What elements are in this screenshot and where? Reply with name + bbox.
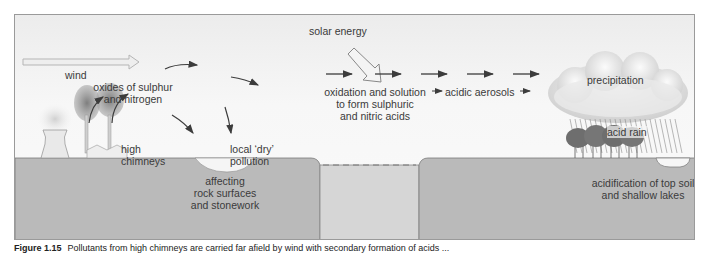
acidification-label-line-1: acidification of top soil: [583, 177, 695, 189]
oxidation-label-line-2: to form sulphuric: [315, 98, 435, 110]
affecting-rock-label: affecting rock surfaces and stonework: [175, 175, 275, 211]
oxides-label: oxides of sulphur and nitrogen: [81, 81, 185, 105]
rain-cloud-icon: [548, 51, 688, 123]
high-chimneys-label: high chimneys: [121, 143, 165, 167]
oxidation-label: oxidation and solution to form sulphuric…: [315, 86, 435, 122]
local-dry-pollution-label: local ‘dry’ pollution: [230, 143, 274, 167]
affecting-label-line-3: and stonework: [175, 199, 275, 211]
figure-number: Figure 1.15: [14, 243, 62, 253]
chimneys-label-line-2: chimneys: [121, 155, 165, 167]
solar-energy-label: solar energy: [309, 25, 367, 37]
diagram-artwork: [15, 15, 695, 240]
precipitation-label: precipitation: [587, 74, 644, 86]
chimneys-label-line-1: high: [121, 143, 165, 155]
wind-arrow-icon: [23, 55, 139, 69]
affecting-label-line-1: affecting: [175, 175, 275, 187]
cooling-tower-icon: [37, 103, 73, 158]
acidic-aerosols-label: acidic aerosols: [445, 86, 514, 98]
oxides-label-line-2: and nitrogen: [81, 93, 185, 105]
oxidation-label-line-1: oxidation and solution: [315, 86, 435, 98]
acidification-label: acidification of top soil and shallow la…: [583, 177, 695, 201]
oxides-label-line-1: oxides of sulphur: [81, 81, 185, 93]
local-label-line-1: local ‘dry’: [230, 143, 274, 155]
wind-label: wind: [65, 69, 87, 81]
figure-caption: Figure 1.15Pollutants from high chimneys…: [14, 243, 449, 253]
acidification-label-line-2: and shallow lakes: [583, 189, 695, 201]
caption-text: Pollutants from high chimneys are carrie…: [68, 243, 450, 253]
acid-rain-label: acid rain: [607, 126, 647, 138]
acid-rain-diagram: wind oxides of sulphur and nitrogen high…: [14, 14, 695, 240]
solar-energy-arrow-icon: [348, 48, 381, 82]
affecting-label-line-2: rock surfaces: [175, 187, 275, 199]
ground-gap: [320, 165, 419, 240]
oxidation-label-line-3: and nitric acids: [315, 110, 435, 122]
local-label-line-2: pollution: [230, 155, 274, 167]
